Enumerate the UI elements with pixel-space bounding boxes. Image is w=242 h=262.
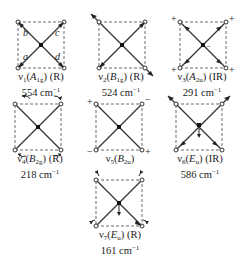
sign-minus: − xyxy=(145,94,151,105)
atom-label-c: c xyxy=(55,27,60,38)
v7-diagram xyxy=(81,168,161,238)
atom-label-d: d xyxy=(55,51,61,62)
sign-plus: + xyxy=(87,96,93,107)
v6-diagram xyxy=(162,90,242,160)
sign-plus: + xyxy=(229,13,235,24)
atom-label-b: b xyxy=(23,27,28,38)
v3-diagram: + + + + − xyxy=(162,0,242,80)
v4-diagram xyxy=(0,90,80,160)
v1-diagram: b c a d xyxy=(0,0,80,80)
sign-plus: + xyxy=(171,13,177,24)
atom-label-a: a xyxy=(23,51,28,62)
v5-diagram: + − − + xyxy=(81,90,161,160)
sign-minus: − xyxy=(206,42,211,51)
v6-frequency: 586 cm−1 xyxy=(160,166,240,181)
v2-diagram xyxy=(81,0,161,80)
v7-frequency: 161 cm−1 xyxy=(80,242,160,257)
v4-frequency: 218 cm−1 xyxy=(0,166,80,181)
v5-label: ν5(B2u) xyxy=(80,153,160,168)
